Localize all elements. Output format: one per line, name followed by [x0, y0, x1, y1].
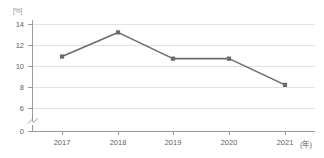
data-point-marker — [283, 83, 287, 87]
data-point-marker — [227, 57, 231, 61]
data-point-marker — [171, 57, 175, 61]
data-series-line — [0, 0, 324, 158]
line-chart: ··· ····· ····· ·· [%] 14 12 10 8 6 0 20… — [0, 0, 324, 158]
data-point-marker — [60, 54, 64, 58]
data-point-marker — [116, 30, 120, 34]
